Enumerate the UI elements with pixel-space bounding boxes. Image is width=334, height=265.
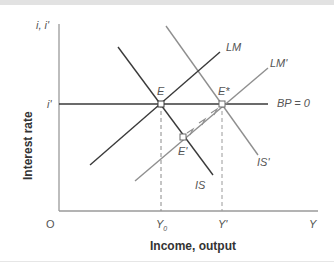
lm-prime-label: LM' (270, 58, 287, 69)
x-tick-y: Y (309, 219, 316, 230)
bp-label: BP = 0 (277, 98, 310, 109)
x-tick-y-prime: Y' (218, 219, 227, 230)
y-tick-i-prime: i' (47, 99, 52, 110)
lm-label: LM (226, 42, 241, 53)
e-label: E (157, 86, 164, 97)
point-e-star (219, 101, 225, 107)
lm-curve (90, 52, 220, 165)
is-prime-label: IS' (257, 157, 270, 168)
bottom-divider (0, 261, 334, 262)
lm-prime-curve (135, 68, 268, 181)
x-axis-title: Income, output (150, 240, 236, 252)
point-e (158, 101, 164, 107)
e-star-label: E* (218, 86, 230, 97)
x-tick-y0: Y0 (156, 219, 167, 232)
adjustment-arrows-icon (187, 109, 217, 135)
x-tick-y0-sub: 0 (163, 225, 167, 232)
origin-label: O (46, 219, 55, 230)
y-axis-title: Interest rate (22, 111, 34, 180)
e-prime-label: E' (178, 146, 187, 157)
point-e-prime (180, 134, 186, 140)
y-axis-top-label: i, i' (36, 20, 49, 31)
is-label: IS (195, 180, 205, 191)
